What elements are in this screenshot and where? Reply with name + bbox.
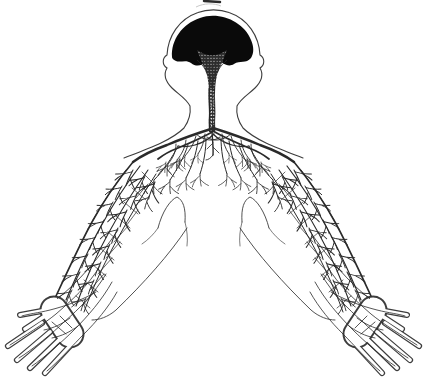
- scanned-figure-page: [0, 0, 423, 378]
- brainstem: [197, 50, 227, 93]
- nervous-system-illustration: [0, 0, 423, 378]
- artifact-dash: [204, 1, 220, 2]
- right-arm: [207, 128, 419, 373]
- stub-branch: [213, 147, 219, 153]
- left-arm: [8, 128, 220, 373]
- stub-hook: [206, 155, 213, 160]
- stub-branch: [207, 143, 213, 149]
- page-crop-artifact: [196, 1, 221, 7]
- artifact-squiggle: [196, 4, 221, 7]
- brainstem-funnel: [197, 50, 227, 93]
- spinal-cord: [209, 88, 215, 132]
